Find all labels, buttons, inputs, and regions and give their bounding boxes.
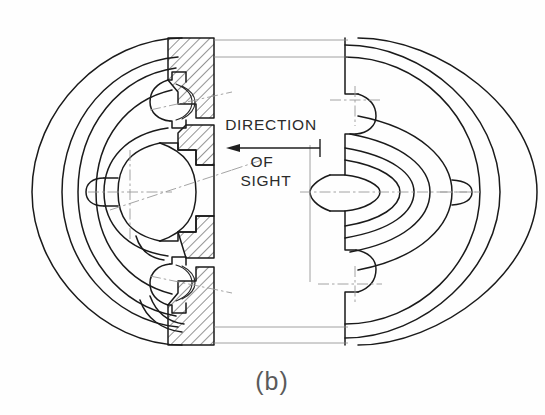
direction-label-line3: SIGHT	[241, 172, 292, 189]
drawing-background	[0, 0, 545, 415]
direction-label-line2: OF	[251, 153, 274, 170]
technical-drawing-canvas: DIRECTION OF SIGHT (b)	[0, 0, 545, 415]
figure-root: DIRECTION OF SIGHT (b)	[0, 0, 545, 415]
figure-caption: (b)	[255, 367, 289, 395]
direction-label-line1: DIRECTION	[225, 116, 317, 133]
